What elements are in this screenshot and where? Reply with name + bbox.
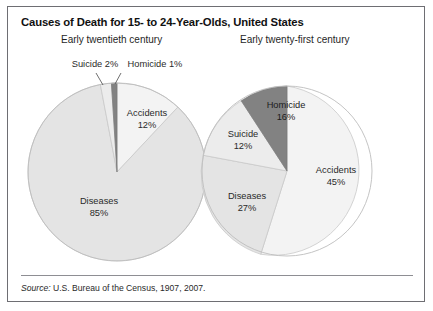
label-right-accidents: Accidents 45% xyxy=(316,165,356,188)
label-right-homicide-pct: 16% xyxy=(267,112,306,124)
label-right-accidents-pct: 45% xyxy=(316,177,356,189)
figure-panel: Causes of Death for 15- to 24-Year-Olds,… xyxy=(7,6,425,302)
label-right-suicide-pct: 12% xyxy=(228,141,259,153)
source-keyword: Source: xyxy=(21,283,51,293)
source-note: Source: U.S. Bureau of the Census, 1907,… xyxy=(21,283,205,293)
label-right-suicide: Suicide 12% xyxy=(228,129,259,152)
pie-right-svg xyxy=(8,7,426,303)
label-right-suicide-name: Suicide xyxy=(228,129,259,141)
label-right-diseases-name: Diseases xyxy=(228,191,266,203)
source-text: U.S. Bureau of the Census, 1907, 2007. xyxy=(51,283,206,293)
label-right-diseases: Diseases 27% xyxy=(228,191,266,214)
label-right-homicide: Homicide 16% xyxy=(267,100,306,123)
label-right-diseases-pct: 27% xyxy=(228,203,266,215)
label-right-accidents-name: Accidents xyxy=(316,165,356,177)
source-divider xyxy=(21,275,413,276)
label-right-homicide-name: Homicide xyxy=(267,100,306,112)
